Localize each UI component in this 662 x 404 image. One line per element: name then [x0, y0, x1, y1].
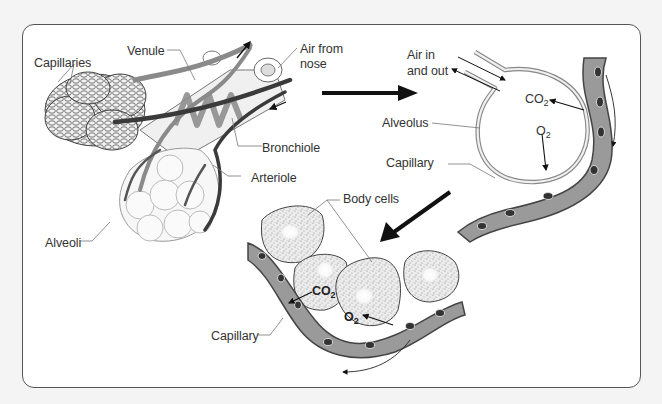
label-arteriole: Arteriole — [251, 171, 297, 185]
o2-text: O — [536, 124, 546, 138]
label-o2-lower: O2 — [344, 310, 359, 328]
co2-subscript: 2 — [331, 290, 336, 300]
label-air-in-out-line1: Air in — [407, 48, 435, 62]
co2-text: CO — [312, 284, 331, 298]
co2-subscript: 2 — [544, 98, 549, 108]
label-venule: Venule — [127, 44, 165, 58]
o2-subscript: 2 — [354, 316, 359, 326]
label-co2-upper: CO2 — [525, 92, 548, 110]
label-o2-upper: O2 — [536, 124, 551, 142]
label-capillaries: Capillaries — [34, 56, 91, 70]
big-arrow-right — [322, 85, 418, 101]
label-air-in-out-line2: and out — [407, 64, 448, 78]
label-alveoli: Alveoli — [45, 236, 81, 250]
label-body-cells: Body cells — [343, 192, 399, 206]
label-alveolus: Alveolus — [382, 116, 428, 130]
o2-text: O — [344, 310, 354, 324]
capillary-network — [45, 72, 146, 150]
co2-text: CO — [525, 92, 544, 106]
label-capillary-lower: Capillary — [211, 329, 259, 343]
label-air-from-nose-line2: nose — [300, 57, 327, 71]
label-air-from-nose-line1: Air from — [300, 42, 343, 56]
label-bronchiole: Bronchiole — [262, 141, 320, 155]
alveoli-cluster — [120, 148, 219, 241]
alveolus-sac — [465, 52, 588, 182]
label-co2-lower: CO2 — [312, 284, 335, 302]
o2-subscript: 2 — [546, 130, 551, 140]
diagram-artwork — [0, 0, 662, 404]
label-capillary-upper: Capillary — [386, 156, 434, 170]
